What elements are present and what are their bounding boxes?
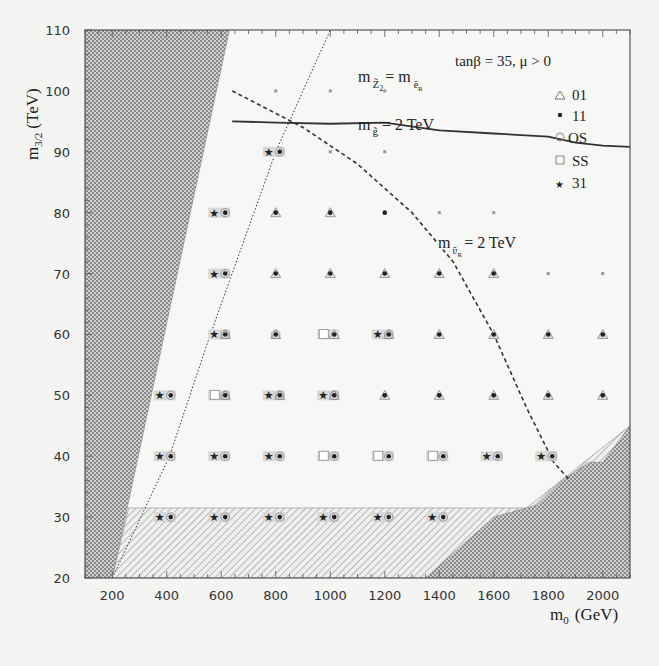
- y-tick-label: 50: [53, 388, 70, 403]
- x-tick-label: 1200: [368, 588, 401, 603]
- y-tick-label: 80: [53, 206, 70, 221]
- y-tick-label: 40: [53, 449, 70, 464]
- svg-text:OS: OS: [568, 130, 587, 146]
- data-point: [601, 272, 604, 275]
- svg-text:★: ★: [209, 207, 219, 220]
- plot-area: ★★★★★★★★★★★★★★★★★★★: [85, 30, 630, 578]
- dot-icon: [558, 113, 562, 117]
- data-point: [329, 150, 332, 153]
- y-axis-label: m3/2(TeV): [23, 88, 44, 160]
- y-tick-label: 70: [53, 267, 70, 282]
- svg-text:11: 11: [572, 108, 586, 124]
- svg-text:★: ★: [482, 450, 492, 463]
- data-point: [383, 150, 386, 153]
- svg-text:★: ★: [264, 146, 274, 159]
- y-tick-label: 60: [53, 327, 70, 342]
- params-annotation: tanβ = 35, μ > 0: [455, 53, 551, 69]
- svg-text:★: ★: [373, 511, 383, 524]
- svg-text:★: ★: [155, 450, 165, 463]
- data-point: [317, 451, 339, 461]
- svg-text:★: ★: [318, 511, 328, 524]
- y-tick-label: 30: [53, 510, 70, 525]
- x-tick-label: 600: [209, 588, 234, 603]
- x-tick-label: 1600: [477, 588, 510, 603]
- data-point: [274, 89, 277, 92]
- y-tick-label: 100: [45, 84, 70, 99]
- svg-text:★: ★: [209, 511, 219, 524]
- svg-text:★: ★: [155, 511, 165, 524]
- x-tick-label: 1000: [314, 588, 347, 603]
- x-tick-label: 2000: [586, 588, 619, 603]
- x-axis-label: m0(GeV): [550, 605, 618, 626]
- data-point: [372, 451, 394, 461]
- x-tick-label: 400: [154, 588, 179, 603]
- svg-text:★: ★: [264, 450, 274, 463]
- svg-text:SS: SS: [572, 153, 589, 169]
- y-tick-label: 90: [53, 145, 70, 160]
- x-tick-label: 1800: [532, 588, 565, 603]
- svg-text:31: 31: [572, 175, 587, 191]
- data-point: [208, 390, 230, 400]
- data-point: [426, 451, 448, 461]
- data-point: [382, 210, 387, 215]
- svg-text:★: ★: [318, 389, 328, 402]
- svg-text:★: ★: [264, 511, 274, 524]
- x-tick-label: 1400: [423, 588, 456, 603]
- svg-text:★: ★: [536, 450, 546, 463]
- data-point: [547, 272, 550, 275]
- svg-text:★: ★: [373, 328, 383, 341]
- star-icon: ★: [555, 179, 564, 190]
- data-point: [492, 211, 495, 214]
- y-tick-label: 20: [53, 571, 70, 586]
- svg-text:★: ★: [209, 450, 219, 463]
- svg-text:01: 01: [572, 87, 587, 103]
- data-point: [317, 329, 339, 339]
- x-tick-label: 800: [263, 588, 288, 603]
- svg-text:★: ★: [264, 389, 274, 402]
- svg-text:★: ★: [209, 328, 219, 341]
- svg-text:★: ★: [155, 389, 165, 402]
- x-tick-label: 200: [100, 588, 125, 603]
- svg-text:★: ★: [209, 268, 219, 281]
- chart: ★★★★★★★★★★★★★★★★★★★ 20040060080010001200…: [0, 0, 659, 666]
- svg-text:★: ★: [427, 511, 437, 524]
- y-tick-label: 110: [45, 23, 70, 38]
- data-point: [329, 89, 332, 92]
- data-point: [383, 89, 386, 92]
- data-point: [438, 211, 441, 214]
